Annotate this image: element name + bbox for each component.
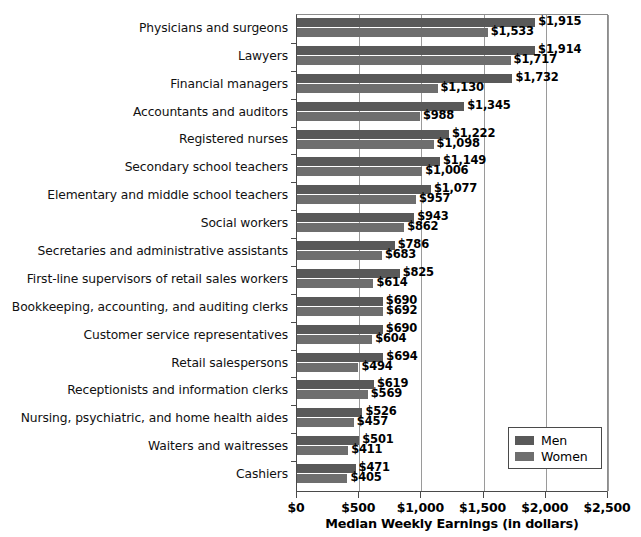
bar-value-label: $1,732 xyxy=(515,72,558,82)
bar-men xyxy=(297,213,414,222)
bar-row: $1,732$1,130 xyxy=(297,73,607,101)
bar-women xyxy=(297,307,383,316)
bar-men xyxy=(297,46,535,55)
category-label: Nursing, psychiatric, and home health ai… xyxy=(21,412,288,425)
bar-women xyxy=(297,446,348,455)
category-label: Customer service representatives xyxy=(83,329,288,342)
category-label: First-line supervisors of retail sales w… xyxy=(27,273,288,286)
x-axis-title: Median Weekly Earnings (in dollars) xyxy=(296,516,608,531)
bar-chart: Physicians and surgeonsLawyersFinancial … xyxy=(0,0,641,537)
bar-women xyxy=(297,140,434,149)
y-axis-tick xyxy=(291,322,296,323)
bar-women xyxy=(297,390,368,399)
bar-men xyxy=(297,408,362,417)
bar-row: $694$494 xyxy=(297,352,607,380)
bar-value-label: $604 xyxy=(375,333,406,343)
bar-women xyxy=(297,84,438,93)
bar-women xyxy=(297,279,373,288)
bar-men xyxy=(297,297,383,306)
y-axis-tick xyxy=(291,350,296,351)
bar-women xyxy=(297,363,358,372)
bar-row: $1,914$1,717 xyxy=(297,45,607,73)
bar-value-label: $862 xyxy=(407,221,438,231)
category-label: Retail salespersons xyxy=(171,357,288,370)
category-label: Cashiers xyxy=(236,468,288,481)
category-label: Physicians and surgeons xyxy=(139,22,288,35)
y-axis-tick xyxy=(291,433,296,434)
bar-men xyxy=(297,464,356,473)
bar-women xyxy=(297,195,416,204)
y-axis-tick xyxy=(291,154,296,155)
bar-men xyxy=(297,130,449,139)
bar-value-label: $405 xyxy=(350,472,381,482)
y-axis-tick xyxy=(291,71,296,72)
legend-label-women: Women xyxy=(541,449,588,464)
bar-value-label: $683 xyxy=(385,249,416,259)
bar-row: $690$692 xyxy=(297,296,607,324)
bar-value-label: $988 xyxy=(423,110,454,120)
bar-men xyxy=(297,241,395,250)
bar-value-label: $957 xyxy=(419,193,450,203)
x-axis-tick xyxy=(358,492,359,498)
bar-value-label: $692 xyxy=(386,305,417,315)
bar-rows: $1,915$1,533$1,914$1,717$1,732$1,130$1,3… xyxy=(297,15,607,491)
bar-value-label: $1,717 xyxy=(514,54,557,64)
bar-value-label: $569 xyxy=(371,388,402,398)
category-label: Elementary and middle school teachers xyxy=(47,189,288,202)
bar-value-label: $614 xyxy=(376,277,407,287)
category-label: Secretaries and administrative assistant… xyxy=(38,245,288,258)
x-axis-tick xyxy=(607,492,608,498)
category-label: Secondary school teachers xyxy=(125,161,288,174)
bar-men xyxy=(297,380,374,389)
bar-women xyxy=(297,418,354,427)
bar-row: $943$862 xyxy=(297,212,607,240)
x-tick-label: $2,000 xyxy=(521,500,568,515)
category-label: Receptionists and information clerks xyxy=(67,384,288,397)
y-axis-tick xyxy=(291,405,296,406)
bar-men xyxy=(297,325,383,334)
bar-women xyxy=(297,223,404,232)
category-label: Registered nurses xyxy=(179,133,288,146)
bar-row: $1,222$1,098 xyxy=(297,129,607,157)
bar-men xyxy=(297,157,440,166)
bar-value-label: $1,130 xyxy=(441,82,484,92)
legend-swatch-women xyxy=(515,452,534,461)
bar-women xyxy=(297,251,382,260)
bar-value-label: $411 xyxy=(351,444,382,454)
bar-row: $1,345$988 xyxy=(297,101,607,129)
x-axis-tick xyxy=(545,492,546,498)
legend-item-women: Women xyxy=(515,448,601,464)
bar-row: $1,077$957 xyxy=(297,184,607,212)
category-label: Social workers xyxy=(201,217,288,230)
y-axis-tick xyxy=(291,43,296,44)
x-tick-label: $2,500 xyxy=(583,500,630,515)
gridline-2500 xyxy=(608,15,609,491)
plot-area: $1,915$1,533$1,914$1,717$1,732$1,130$1,3… xyxy=(296,14,608,492)
legend-swatch-men xyxy=(515,436,534,445)
bar-women xyxy=(297,112,420,121)
category-label: Waiters and waitresses xyxy=(148,440,288,453)
category-label: Financial managers xyxy=(170,78,288,91)
category-label: Accountants and auditors xyxy=(133,106,288,119)
bar-women xyxy=(297,28,488,37)
y-axis-tick xyxy=(291,210,296,211)
x-tick-label: $0 xyxy=(288,500,305,515)
bar-value-label: $494 xyxy=(361,361,392,371)
bar-row: $690$604 xyxy=(297,324,607,352)
bar-value-label: $1,098 xyxy=(437,138,480,148)
bar-women xyxy=(297,335,372,344)
x-axis-tick xyxy=(483,492,484,498)
bar-women xyxy=(297,474,347,483)
y-axis-tick xyxy=(291,461,296,462)
bar-women xyxy=(297,167,422,176)
category-label: Lawyers xyxy=(238,50,288,63)
bar-value-label: $1,006 xyxy=(425,165,468,175)
x-tick-label: $1,000 xyxy=(397,500,444,515)
bar-row: $1,149$1,006 xyxy=(297,156,607,184)
x-tick-label: $500 xyxy=(341,500,375,515)
y-axis-tick xyxy=(291,238,296,239)
bar-row: $786$683 xyxy=(297,240,607,268)
y-axis-tick xyxy=(291,127,296,128)
bar-row: $825$614 xyxy=(297,268,607,296)
x-axis-tick xyxy=(420,492,421,498)
